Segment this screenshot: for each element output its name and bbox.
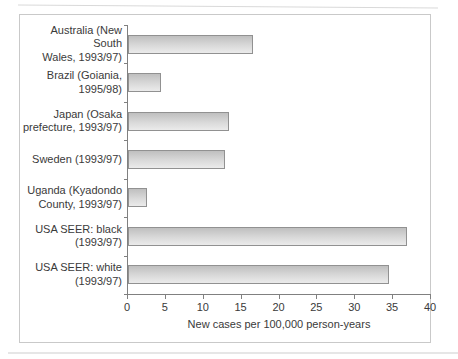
x-axis-tick (392, 295, 393, 299)
x-axis-tick (279, 295, 280, 299)
category-label-line: County, 1993/97) (38, 198, 122, 212)
bar-1 (128, 35, 253, 54)
category-label-7: USA SEER: white(1993/97) (22, 256, 122, 294)
x-tick-label: 5 (162, 301, 168, 313)
x-axis-tick (316, 295, 317, 299)
y-axis-tick (124, 63, 127, 64)
category-label-line: Australia (New South (22, 24, 122, 51)
y-axis-tick (124, 140, 127, 141)
y-axis-tick (124, 25, 127, 26)
x-axis-tick (203, 295, 204, 299)
category-label-line: prefecture, 1993/97) (23, 121, 122, 135)
x-tick-label: 10 (197, 301, 209, 313)
x-tick-label: 40 (424, 301, 436, 313)
y-axis-tick (124, 179, 127, 180)
y-axis-tick (124, 102, 127, 103)
x-axis-tick (127, 295, 128, 299)
x-axis-tick (241, 295, 242, 299)
x-axis-tick (430, 295, 431, 299)
category-label-line: Uganda (Kyadondo (27, 184, 122, 198)
category-label-2: Brazil (Goiania,1995/98) (22, 63, 122, 101)
x-axis-tick (354, 295, 355, 299)
x-tick-label: 15 (235, 301, 247, 313)
bar-6 (128, 227, 407, 246)
y-axis-tick (124, 256, 127, 257)
bar-2 (128, 73, 161, 92)
category-label-4: Sweden (1993/97) (22, 140, 122, 178)
category-label-5: Uganda (KyadondoCounty, 1993/97) (22, 179, 122, 217)
category-label-line: (1993/97) (75, 236, 122, 250)
category-label-line: USA SEER: black (35, 223, 122, 237)
category-label-line: Japan (Osaka (54, 108, 122, 122)
chart-frame: Australia (New SouthWales, 1993/97)Brazi… (19, 14, 431, 343)
category-label-1: Australia (New SouthWales, 1993/97) (22, 25, 122, 63)
x-tick-label: 20 (272, 301, 284, 313)
x-tick-label: 0 (124, 301, 130, 313)
category-label-line: Sweden (1993/97) (32, 153, 122, 167)
x-axis-tick (165, 295, 166, 299)
x-tick-label: 30 (348, 301, 360, 313)
category-label-line: USA SEER: white (35, 261, 122, 275)
y-axis-tick (124, 217, 127, 218)
bar-7 (128, 265, 389, 284)
category-label-line: Brazil (Goiania, (47, 69, 122, 83)
category-label-3: Japan (Osakaprefecture, 1993/97) (22, 102, 122, 140)
page-bottom-rule (8, 352, 458, 354)
category-label-line: (1993/97) (75, 275, 122, 289)
category-label-line: 1995/98) (79, 83, 122, 97)
x-axis-title: New cases per 100,000 person-years (127, 318, 431, 330)
bar-4 (128, 150, 225, 169)
bar-5 (128, 188, 147, 207)
page-top-rule (18, 5, 438, 9)
x-tick-label: 35 (386, 301, 398, 313)
bar-3 (128, 112, 229, 131)
x-tick-label: 25 (310, 301, 322, 313)
figure: Australia (New SouthWales, 1993/97)Brazi… (0, 0, 458, 359)
category-label-6: USA SEER: black(1993/97) (22, 217, 122, 255)
